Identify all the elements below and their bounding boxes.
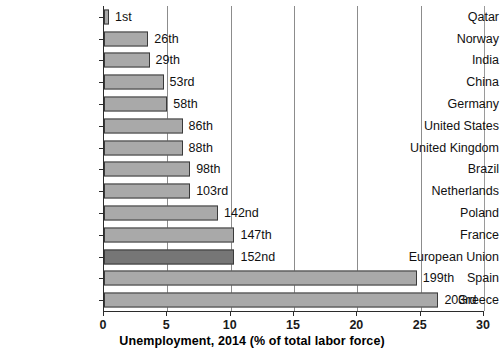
bar[interactable] <box>104 162 190 177</box>
y-tick <box>99 213 103 214</box>
bar[interactable] <box>104 293 438 308</box>
category-label: Qatar <box>406 10 504 24</box>
bar[interactable] <box>104 140 183 155</box>
bar-value-label: 203rd <box>438 293 476 307</box>
y-tick <box>99 148 103 149</box>
bar-value-label: 1st <box>109 10 132 24</box>
x-tick-label: 25 <box>413 318 427 332</box>
x-tick-label: 15 <box>286 318 300 332</box>
bar-row: United Kingdom88th <box>0 137 504 159</box>
x-tick-label: 30 <box>476 318 490 332</box>
x-tick-label: 20 <box>349 318 363 332</box>
bar-chart: 051015202530 Qatar1stNorway26thIndia29th… <box>0 0 504 361</box>
bar-row: United States86th <box>0 115 504 137</box>
category-label: European Union <box>406 250 504 264</box>
bar[interactable] <box>104 249 234 264</box>
y-tick <box>99 235 103 236</box>
bar-row: Germany58th <box>0 93 504 115</box>
y-tick <box>99 257 103 258</box>
bar-value-label: 53rd <box>164 75 195 89</box>
category-label: Germany <box>406 97 504 111</box>
x-tick <box>483 311 484 316</box>
category-label: China <box>406 75 504 89</box>
x-tick-label: 5 <box>163 318 170 332</box>
bar-value-label: 86th <box>183 119 213 133</box>
category-label: Poland <box>406 206 504 220</box>
bar-value-label: 142nd <box>218 206 259 220</box>
bar-row: France147th <box>0 224 504 246</box>
x-tick <box>420 311 421 316</box>
bar-row: Norway26th <box>0 28 504 50</box>
y-tick <box>99 104 103 105</box>
bar-row: Spain199th <box>0 267 504 289</box>
category-label: Norway <box>406 32 504 46</box>
category-label: India <box>406 53 504 67</box>
bar-row: European Union152nd <box>0 246 504 268</box>
bar-row: Brazil98th <box>0 159 504 181</box>
bar-value-label: 152nd <box>234 250 275 264</box>
bar-value-label: 98th <box>190 162 220 176</box>
bar-value-label: 147th <box>234 228 271 242</box>
bar-row: India29th <box>0 50 504 72</box>
category-label: Netherlands <box>406 184 504 198</box>
y-tick <box>99 82 103 83</box>
bar-value-label: 26th <box>148 32 178 46</box>
bar[interactable] <box>104 227 234 242</box>
bar-row: Netherlands103rd <box>0 180 504 202</box>
x-axis-title: Unemployment, 2014 (% of total labor for… <box>0 334 504 348</box>
category-label: France <box>406 228 504 242</box>
y-tick <box>99 300 103 301</box>
x-tick <box>166 311 167 316</box>
bar-value-label: 29th <box>150 53 180 67</box>
bar[interactable] <box>104 31 148 46</box>
category-label: United States <box>406 119 504 133</box>
bar-value-label: 88th <box>183 141 213 155</box>
category-label: Brazil <box>406 162 504 176</box>
bar-value-label: 199th <box>417 271 454 285</box>
bar[interactable] <box>104 97 167 112</box>
x-tick <box>293 311 294 316</box>
bar-value-label: 103rd <box>190 184 228 198</box>
y-tick <box>99 126 103 127</box>
y-tick <box>99 191 103 192</box>
x-tick-label: 0 <box>100 318 107 332</box>
y-tick <box>99 39 103 40</box>
bar[interactable] <box>104 118 183 133</box>
y-tick <box>99 17 103 18</box>
x-tick <box>103 311 104 316</box>
bar[interactable] <box>104 184 190 199</box>
bar-row: Poland142nd <box>0 202 504 224</box>
category-label: United Kingdom <box>406 141 504 155</box>
bar[interactable] <box>104 271 417 286</box>
x-tick <box>230 311 231 316</box>
x-tick-label: 10 <box>223 318 237 332</box>
bar[interactable] <box>104 205 218 220</box>
bar-row: Qatar1st <box>0 6 504 28</box>
bar-value-label: 58th <box>167 97 197 111</box>
bar-row: Greece203rd <box>0 289 504 311</box>
y-tick <box>99 169 103 170</box>
bar[interactable] <box>104 53 150 68</box>
bar-row: China53rd <box>0 71 504 93</box>
bar[interactable] <box>104 75 164 90</box>
x-tick <box>356 311 357 316</box>
y-tick <box>99 60 103 61</box>
y-tick <box>99 278 103 279</box>
